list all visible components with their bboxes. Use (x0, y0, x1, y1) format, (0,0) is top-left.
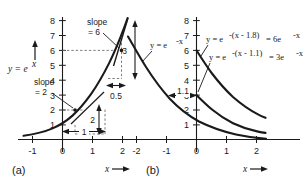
panel-b-label3-text-b: = 3e (269, 52, 284, 62)
panel-b-label: (b) (146, 164, 159, 176)
panel-a-slope2-line1: slope (34, 77, 55, 87)
panel-b-label3-text-a: y = e (209, 52, 226, 62)
panel-a-ytick-8: 8 (50, 16, 55, 26)
panel-b-label6-text-a: y = e (206, 34, 223, 44)
panel-b-label6-sup-b: -x (293, 30, 301, 40)
panel-b-shift11-label: 1.1 (177, 86, 189, 96)
panel-a-ytick-3: 3 (50, 91, 55, 101)
panel-a-xtick-0: 0 (60, 146, 65, 156)
panel-b-xtick-0: 0 (194, 146, 199, 156)
panel-b-ytick-7: 7 (184, 31, 189, 41)
panel-b-label-base-text: y = e (150, 40, 167, 50)
panel-b-xtick-1: 1 (224, 146, 229, 156)
panel-b-label3-sup-a: -(x - 1.1) (232, 48, 263, 58)
panel-a-ylabel-exponent: x (31, 59, 37, 69)
panel-b-label6-sup-a: -(x - 1.8) (229, 30, 260, 40)
panel-b-ytick-8: 8 (184, 16, 189, 26)
panel-a-label: (a) (12, 164, 25, 176)
panel-a-xtick-2: 2 (120, 146, 125, 156)
panel-b-xlabel-text: x (242, 164, 248, 174)
panel-a-rise3-label: 3 (122, 46, 127, 56)
panel-b-xtick-neg2: -2 (132, 146, 140, 156)
panel-a-rise2-label: 2 (90, 115, 95, 125)
figure-container: 1 2 3 4 5 6 7 8 -1 0 1 2 y = e x x (0, 0, 305, 181)
panel-a-xlabel-text: x (104, 164, 110, 174)
panel-b-label3-sup-b: -x (296, 48, 304, 58)
panel-a-ylabel-text: y = e (7, 64, 28, 74)
panel-a-run05-label: 0.5 (110, 91, 122, 101)
panel-b-ytick-1: 1 (184, 120, 189, 130)
panel-b-xtick-neg1: -1 (162, 146, 170, 156)
panel-a-ytick-7: 7 (50, 31, 55, 41)
figure-svg: 1 2 3 4 5 6 7 8 -1 0 1 2 y = e x x (0, 0, 305, 181)
panel-a-ytick-5: 5 (50, 61, 55, 71)
panel-a-point-slope2 (73, 108, 77, 112)
panel-a-xtick-1: 1 (90, 146, 95, 156)
panel-b-label-base-sup: -x (176, 36, 184, 46)
panel-a-xtick-neg1: -1 (28, 146, 36, 156)
panel-b-ytick-4: 4 (184, 76, 189, 86)
panel-b-label6-text-b: = 6e (266, 34, 281, 44)
panel-b-ytick-5: 5 (184, 61, 189, 71)
panel-a-run1-label: 1 (82, 127, 87, 137)
panel-a-ytick-2: 2 (50, 105, 55, 115)
panel-a-ytick-6: 6 (50, 46, 55, 56)
panel-a-slope2-line2: = 2 (35, 87, 47, 97)
panel-a-slope6-line2: = 6 (88, 27, 100, 37)
panel-a-slope6-line1: slope (87, 17, 108, 27)
panel-b-ytick-6: 6 (184, 46, 189, 56)
panel-b-xtick-2: 2 (254, 146, 259, 156)
